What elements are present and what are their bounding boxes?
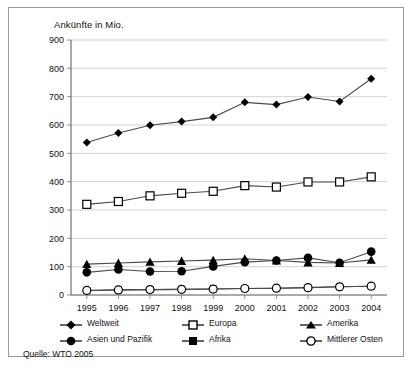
x-axis-tick-label: 2004 [361, 303, 381, 313]
legend-item-mittlerer-osten[interactable]: Mittlerer Osten [299, 333, 383, 345]
legend-item-afrika[interactable]: Afrika [181, 333, 299, 345]
y-axis-tick-label: 500 [49, 149, 64, 159]
legend-row-1: Weltweit Europa Amerika [59, 315, 399, 331]
line-chart-svg: 0100200300400500600700800900199519961997… [9, 8, 405, 358]
legend-item-asien-und-pazifik[interactable]: Asien und Pazifik [59, 333, 181, 345]
y-axis-tick-label: 100 [49, 262, 64, 272]
source-note: Quelle: WTO 2005 [23, 349, 93, 359]
y-axis-tick-label: 300 [49, 205, 64, 215]
y-axis-tick-label: 400 [49, 177, 64, 187]
x-axis-tick-label: 2003 [330, 303, 350, 313]
filled-triangle-icon [299, 317, 323, 329]
x-axis-tick-label: 2000 [235, 303, 255, 313]
legend-item-amerika[interactable]: Amerika [299, 317, 358, 329]
x-axis-tick-label: 1999 [203, 303, 223, 313]
legend-item-weltweit[interactable]: Weltweit [59, 317, 181, 329]
filled-diamond-icon [59, 317, 83, 329]
series-weltweit [83, 75, 375, 147]
open-circle-icon [299, 333, 323, 345]
y-axis-tick-label: 700 [49, 92, 64, 102]
open-square-icon [181, 317, 205, 329]
legend-label: Amerika [327, 318, 358, 328]
legend-label: Asien und Pazifik [87, 334, 152, 344]
filled-circle-icon [59, 333, 83, 345]
x-axis-tick-label: 2001 [266, 303, 286, 313]
legend-label: Mittlerer Osten [327, 334, 383, 344]
x-axis-tick-label: 1997 [140, 303, 160, 313]
x-axis-tick-label: 1998 [172, 303, 192, 313]
series-europa [83, 173, 375, 208]
legend-label: Europa [209, 318, 236, 328]
y-axis-tick-label: 600 [49, 120, 64, 130]
x-axis-tick-label: 1996 [108, 303, 128, 313]
y-axis-tick-label: 200 [49, 234, 64, 244]
figure-frame: Ankünfte in Mio. 01002003004005006007008… [8, 7, 404, 357]
filled-square-icon [181, 333, 205, 345]
legend-label: Weltweit [87, 318, 119, 328]
legend-item-europa[interactable]: Europa [181, 317, 299, 329]
series-mittlerer-osten [83, 282, 375, 294]
plot-area: 0100200300400500600700800900199519961997… [9, 8, 405, 358]
chart-legend: Weltweit Europa Amerika [59, 315, 399, 347]
y-axis-tick-label: 900 [49, 35, 64, 45]
x-axis-tick-label: 1995 [77, 303, 97, 313]
legend-row-2: Asien und Pazifik Afrika [59, 331, 399, 347]
x-axis-tick-label: 2002 [298, 303, 318, 313]
y-axis-tick-label: 800 [49, 64, 64, 74]
y-axis-tick-label: 0 [59, 290, 64, 300]
series-asien-und-pazifik [83, 247, 376, 276]
legend-label: Afrika [209, 334, 231, 344]
